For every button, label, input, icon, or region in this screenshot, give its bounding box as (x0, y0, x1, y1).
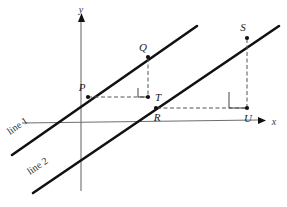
point-label-r: R (153, 111, 161, 123)
diagram-canvas: P Q T R S U y x line 1 line 2 (0, 0, 287, 207)
point-dot-q (146, 55, 150, 59)
point-label-q: Q (139, 41, 147, 53)
right-angle-marker-t (138, 88, 147, 97)
point-dot-s (245, 36, 249, 40)
line-2-label: line 2 (25, 155, 50, 177)
point-label-s: S (240, 21, 246, 33)
x-axis-arrowhead (258, 117, 266, 124)
x-axis-label: x (271, 116, 277, 127)
point-labels-group: P Q T R S U (78, 21, 253, 124)
line-1-stroke (12, 26, 197, 155)
point-dot-r (154, 106, 158, 110)
y-axis-label: y (78, 4, 84, 15)
geometry-figure: P Q T R S U y x line 1 line 2 (0, 0, 287, 207)
point-label-p: P (78, 81, 86, 93)
point-dot-t (146, 95, 150, 99)
point-label-u: U (244, 112, 253, 124)
construction-lines-group (88, 39, 247, 108)
point-label-t: T (155, 91, 162, 103)
right-angle-marker-u (229, 92, 246, 108)
point-dot-p (86, 95, 90, 99)
line-1-label: line 1 (5, 115, 30, 137)
point-dot-u (245, 106, 249, 110)
